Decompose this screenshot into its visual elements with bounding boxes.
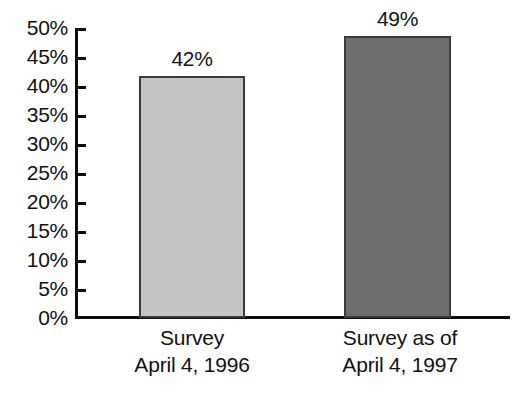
category-label-1997-line1: Survey as of (343, 326, 457, 349)
category-label-1996-line1: Survey (160, 326, 224, 349)
category-label-1996-line2: April 4, 1996 (104, 351, 280, 378)
bar-value-label-1996: 42% (139, 48, 245, 69)
bar-survey-1996 (139, 76, 245, 318)
category-label-1997-line2: April 4, 1997 (310, 351, 490, 378)
category-label-1997: Survey as of April 4, 1997 (310, 324, 490, 378)
category-label-1996: Survey April 4, 1996 (104, 324, 280, 378)
bar-chart: 50% 45% 40% 35% 30% 25% 20% 15% 10% 5% 0… (0, 0, 520, 396)
bar-value-label-1997: 49% (344, 8, 451, 29)
bar-survey-1997 (344, 36, 451, 318)
